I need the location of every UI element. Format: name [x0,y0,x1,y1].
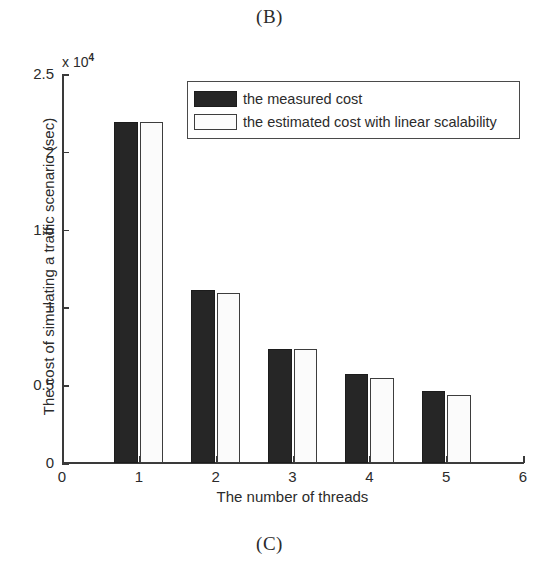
legend-swatch-estimated-cost [194,114,237,130]
x-axis-tick-label: 3 [278,468,308,485]
bar-measured-cost-threads-4 [345,374,369,463]
legend-label-estimated-cost: the estimated cost with linear scalabili… [243,114,497,130]
x-axis-tick-label: 4 [354,468,384,485]
x-axis-tick-label: 2 [201,468,231,485]
bar-estimated-cost-threads-2 [217,293,241,463]
legend-item-measured-cost: the measured cost [194,87,513,110]
x-axis-title: The number of threads [62,488,523,505]
bar-estimated-cost-threads-1 [140,122,164,463]
bar-measured-cost-threads-1 [114,122,138,463]
x-axis-tick-label: 5 [431,468,461,485]
y-axis-title: The cost of simulating a traffic scenari… [40,67,57,467]
x-axis-tick-label: 6 [508,468,538,485]
x-axis-tick [523,456,525,463]
bar-estimated-cost-threads-4 [370,378,394,463]
y-axis-multiplier-base: x 10 [62,54,88,70]
bar-chart: x 104 00.511.522.5 0123456 The number of… [0,0,539,525]
bar-measured-cost-threads-3 [268,349,292,463]
figure-panel-label-bottom: (C) [0,533,539,555]
bar-measured-cost-threads-5 [422,391,446,463]
x-axis-tick-label: 1 [124,468,154,485]
bar-estimated-cost-threads-5 [447,395,471,463]
bar-measured-cost-threads-2 [191,290,215,463]
x-axis-tick-label: 0 [47,468,77,485]
legend-swatch-measured-cost [194,91,237,107]
y-axis-multiplier: x 104 [62,52,94,70]
chart-legend: the measured cost the estimated cost wit… [187,81,520,139]
y-axis-multiplier-exponent: 4 [88,52,94,63]
y-axis-tick [62,463,69,465]
bar-estimated-cost-threads-3 [294,349,318,463]
legend-label-measured-cost: the measured cost [243,91,362,107]
legend-item-estimated-cost: the estimated cost with linear scalabili… [194,110,513,133]
